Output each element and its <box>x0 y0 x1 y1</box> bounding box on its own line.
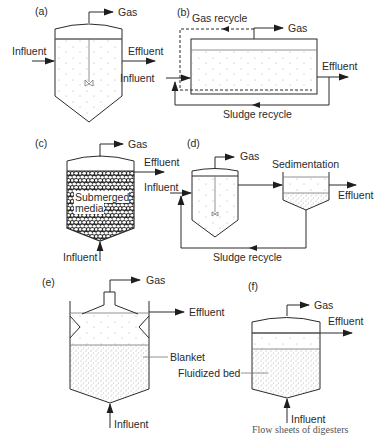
effluent-label-d: Effluent <box>338 189 373 201</box>
gas-label-c: Gas <box>128 138 147 150</box>
gas-label-f: Gas <box>314 299 333 311</box>
fluidized-bed <box>252 349 320 398</box>
sludge-recycle-label-b: Sludge recycle <box>223 108 292 120</box>
blanket-label: Blanket <box>170 351 205 363</box>
reactor-d-roof <box>192 169 238 177</box>
tank-a-roof <box>55 24 122 39</box>
influent-label-d: Influent <box>144 181 179 193</box>
sludge-recycle-label-d: Sludge recycle <box>213 251 282 263</box>
tank-f-roof <box>252 318 320 323</box>
gas-label-d: Gas <box>240 150 259 162</box>
gas-recycle-label: Gas recycle <box>192 12 248 24</box>
gas-label-b: Gas <box>288 22 307 34</box>
influent-label-a: Influent <box>12 45 47 57</box>
gas-label-e: Gas <box>146 274 165 286</box>
panel-f-fluidized-bed: (f) Gas Effluent Fluidized bed Influent <box>178 280 363 425</box>
gas-hood <box>82 292 138 314</box>
influent-label-b: Influent <box>120 72 155 84</box>
effluent-label-e: Effluent <box>189 306 224 318</box>
panel-c-submerged-media-filter: (c) Submerged media Gas Effluent Influen… <box>35 137 179 263</box>
panel-c-label: (c) <box>35 137 47 149</box>
sludge-blanket <box>70 345 149 403</box>
anaerobic-reactor-diagram: (a) Gas Influent Effluent (b) Gas recycl… <box>0 0 384 437</box>
effluent-label-a: Effluent <box>128 45 163 57</box>
panel-e-uasb: (e) Gas Effluent Blanket Influent <box>42 274 224 430</box>
gas-arrow-e <box>110 280 140 292</box>
panel-b-label: (b) <box>177 6 190 18</box>
figure-caption-fragment: Flow sheets of digesters <box>252 424 348 435</box>
gas-arrow-f <box>287 305 309 316</box>
tank-c-roof <box>67 156 134 171</box>
media-label-line2: media <box>75 202 104 214</box>
influent-label-e: Influent <box>114 418 149 430</box>
effluent-label-c: Effluent <box>144 156 179 168</box>
gas-arrow-a <box>89 12 113 23</box>
panel-d-label: (d) <box>187 137 200 149</box>
fluidized-bed-label: Fluidized bed <box>178 367 241 379</box>
gas-arrow-d <box>215 157 234 168</box>
gas-label-a: Gas <box>118 6 137 18</box>
panel-b-plug-flow-digester: (b) Gas recycle Gas Influent Effluent Sl… <box>120 6 357 120</box>
sedimentation-label: Sedimentation <box>272 158 339 170</box>
influent-label-c: Influent <box>63 251 98 263</box>
panel-a-label: (a) <box>35 5 48 17</box>
gas-arrow-c <box>100 144 123 157</box>
effluent-label-f: Effluent <box>328 315 363 327</box>
panel-f-label: (f) <box>248 280 258 292</box>
effluent-label-b: Effluent <box>322 60 357 72</box>
gas-arrow-b <box>254 28 283 39</box>
panel-a-completely-mixed-digester: (a) Gas Influent Effluent <box>12 5 163 122</box>
panel-e-label: (e) <box>42 276 55 288</box>
